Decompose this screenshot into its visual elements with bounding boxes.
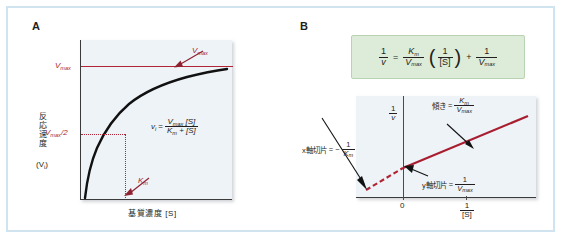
- panel-b-y-axis-num: 1: [389, 105, 397, 113]
- slope-den: Vmax: [454, 105, 474, 114]
- panel-a-km-callout: Km: [138, 176, 148, 185]
- formula-t1-den: Vmax: [403, 57, 424, 67]
- y-intercept-label: y軸切片: [422, 179, 447, 190]
- formula-t1-num: Km: [403, 47, 424, 56]
- figure-container: A 反応速度 (Vi) Vmax Vmax/2 Vmax Km 基質濃度 [S]: [6, 6, 555, 232]
- panel-a-y-axis-symbol: (Vi): [36, 160, 48, 169]
- formula-lhs-den: v: [379, 57, 388, 67]
- panel-a-half-vmax-tick-label: Vmax/2: [45, 128, 68, 137]
- x-intercept-equals: = −: [329, 145, 340, 154]
- slope-num: Km: [454, 97, 474, 105]
- panel-b-slope-arrow-icon: [444, 122, 480, 150]
- panel-b-slope-annotation: 傾き = Km Vmax: [432, 97, 474, 114]
- panel-b-origin-tick-label: 0: [400, 201, 404, 210]
- panel-b-x-tick: [466, 196, 467, 200]
- panel-b-x-intercept-annotation: x軸切片 = − 1 Km: [302, 141, 355, 158]
- panel-b-x-axis-den: [S]: [460, 210, 474, 219]
- panel-a-equation: vi = Vmax [S] Km + [S]: [151, 118, 198, 136]
- panel-b-y-intercept-annotation: y軸切片 = 1 Vmax: [422, 176, 475, 193]
- formula-lhs-num: 1: [379, 47, 388, 56]
- panel-b-x-axis-label: 1 [S]: [460, 202, 474, 220]
- panel-a-x-axis-title: 基質濃度 [S]: [128, 207, 177, 218]
- formula-t3-den: Vmax: [476, 57, 497, 67]
- x-intercept-den: Km: [342, 149, 356, 158]
- formula-paren-close: ): [455, 46, 462, 69]
- formula-plus: +: [466, 52, 471, 62]
- formula-t3-num: 1: [476, 47, 497, 56]
- formula-t2-num: 1: [438, 47, 453, 56]
- panel-a-vmax-tick-label: Vmax: [55, 61, 71, 70]
- slope-equals: =: [448, 101, 452, 110]
- panel-a-letter: A: [32, 20, 40, 32]
- y-intercept-num: 1: [455, 176, 475, 184]
- panel-a-eq-equals: =: [158, 122, 163, 131]
- x-intercept-num: 1: [342, 141, 356, 149]
- y-intercept-equals: =: [449, 180, 453, 189]
- panel-a-half-vmax-guide: [81, 134, 125, 135]
- panel-a-eq-denominator: Km + [S]: [165, 126, 198, 135]
- panel-b-y-axis-label: 1 v: [389, 105, 397, 123]
- formula-paren-open: (: [429, 46, 436, 69]
- panel-b-letter: B: [300, 20, 308, 32]
- panel-b-origin-tick: [403, 196, 404, 200]
- panel-a-eq-numerator: Vmax [S]: [165, 118, 198, 126]
- formula-equals: =: [393, 52, 398, 62]
- panel-b-x-axis-num: 1: [460, 202, 474, 210]
- panel-a-vmax-callout: Vmax: [192, 46, 208, 55]
- formula-t2-den: [S]: [438, 57, 453, 67]
- x-intercept-label: x軸切片: [302, 144, 327, 155]
- slope-label: 傾き: [432, 100, 446, 111]
- y-intercept-den: Vmax: [455, 184, 475, 193]
- panel-a-eq-lhs: vi: [151, 122, 156, 131]
- panel-b-formula: 1 v = Km Vmax ( 1 [S] ) + 1 Vmax: [379, 46, 497, 69]
- panel-a-half-vmax-tick-text: Vmax/2: [45, 128, 68, 137]
- panel-a-vmax-tick-text: Vmax: [55, 61, 71, 70]
- panel-b-formula-box: 1 v = Km Vmax ( 1 [S] ) + 1 Vmax: [351, 35, 525, 79]
- panel-b-y-axis-den: v: [389, 113, 397, 122]
